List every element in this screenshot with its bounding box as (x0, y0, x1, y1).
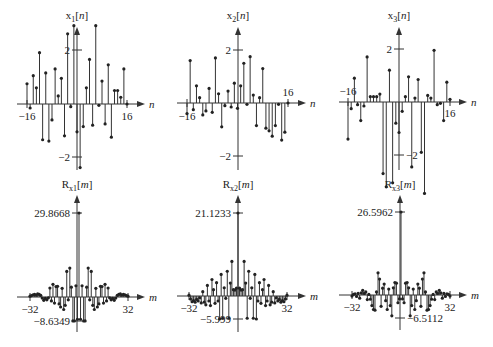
stems (350, 210, 451, 317)
svg-text:32: 32 (123, 303, 134, 315)
svg-text:2: 2 (387, 43, 393, 55)
svg-text:−32: −32 (21, 303, 38, 315)
panel-title: x2[n] (227, 9, 249, 24)
panel-title: Rx1[m] (62, 178, 93, 193)
panel-rx1: Rx1[m] m29.8668−8.6349−3232 (17, 178, 157, 332)
panel-rx2: Rx2[m] m21.1233−5.999−3232 (177, 178, 318, 332)
x-axis-label: m (149, 291, 157, 303)
svg-text:16: 16 (122, 110, 134, 122)
panel-title: Rx3[m] (385, 178, 416, 193)
panel-x1: x1[n] n2−2−1616 (17, 9, 155, 170)
svg-text:−16: −16 (18, 110, 36, 122)
svg-text:−32: −32 (180, 302, 197, 314)
axes: n2−2−1616 (177, 27, 316, 170)
panel-title: Rx2[m] (223, 178, 254, 193)
panel-x2: x2[n] n2−2−1616 (177, 9, 316, 170)
panel-title: x1[n] (66, 9, 88, 24)
stem-plot-figure: x1[n] n2−2−1616 x2[n] n2−2−1616 x3[n] n2… (0, 0, 493, 347)
svg-text:16: 16 (283, 86, 295, 98)
axes: n2−2−1616 (339, 27, 477, 170)
svg-text:−2: −2 (58, 151, 70, 163)
svg-text:32: 32 (445, 301, 456, 313)
stems (28, 211, 129, 322)
axes: m29.8668−8.6349−3232 (17, 195, 157, 332)
svg-text:−6.5112: −6.5112 (407, 312, 443, 324)
panel-title: x3[n] (388, 9, 410, 24)
x-axis-label: m (471, 289, 479, 301)
svg-text:29.8668: 29.8668 (34, 207, 70, 219)
axes: m26.5962−6.5112−3232 (339, 195, 479, 330)
x-axis-label: n (310, 97, 316, 109)
svg-text:−8.6349: −8.6349 (34, 315, 71, 327)
svg-text:2: 2 (226, 44, 232, 56)
svg-text:16: 16 (445, 107, 457, 119)
svg-text:−32: −32 (343, 301, 360, 313)
svg-text:21.1233: 21.1233 (195, 207, 231, 219)
x-axis-label: m (310, 290, 318, 302)
svg-text:26.5962: 26.5962 (357, 206, 393, 218)
svg-text:−2: −2 (219, 150, 231, 162)
panel-x3: x3[n] n2−2−1616 (339, 9, 477, 195)
panel-rx3: Rx3[m] m26.5962−6.5112−3232 (339, 178, 479, 330)
svg-text:−5.999: −5.999 (200, 313, 231, 325)
svg-text:32: 32 (282, 302, 293, 314)
x-axis-label: n (471, 96, 477, 108)
x-axis-label: n (149, 98, 155, 110)
